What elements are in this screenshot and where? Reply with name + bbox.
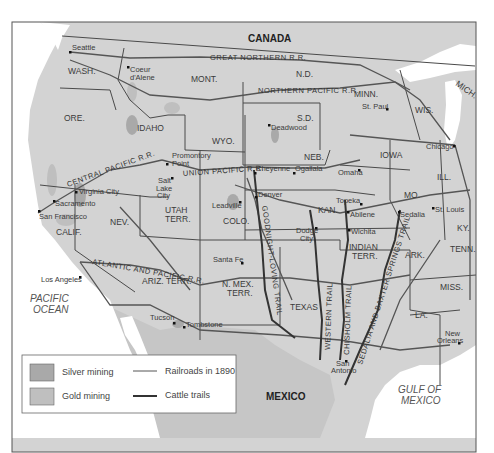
- city-label: d'Alene: [130, 73, 155, 82]
- city-label: Sacramento: [55, 199, 95, 208]
- city-label: Abilene: [350, 210, 375, 219]
- state-label: WYO.: [212, 136, 235, 146]
- city-label: Denver: [258, 190, 283, 199]
- city-label: St. Louis: [435, 205, 464, 214]
- water-label-gulf: GULF OF: [398, 384, 442, 395]
- state-label: NEB.: [304, 152, 324, 162]
- city-label: Antonio: [331, 366, 356, 375]
- legend-gold-label: Gold mining: [62, 391, 110, 401]
- city-label: Omaha: [338, 168, 363, 177]
- city-label: City: [300, 234, 313, 243]
- map: CANADA MEXICO PACIFIC OCEAN GULF OF MEXI…: [0, 0, 494, 453]
- state-label: TERR.: [227, 288, 253, 298]
- state-label: IDAHO: [137, 123, 164, 133]
- state-label: MISS.: [440, 282, 463, 292]
- state-label: KY.: [457, 223, 470, 233]
- state-label: WIS.: [415, 105, 433, 115]
- state-label: CALIF.: [56, 227, 82, 237]
- state-label: MONT.: [191, 74, 217, 84]
- legend-trail-label: Cattle trails: [165, 390, 211, 400]
- city-label: Chicago: [426, 142, 454, 151]
- state-label: KAN.: [318, 205, 338, 215]
- city-label: Tucson: [150, 313, 174, 322]
- gold-mining-area: [164, 102, 180, 114]
- state-label: MO.: [404, 190, 420, 200]
- city-label: Virginia City: [79, 187, 119, 196]
- state-label: ARK.: [405, 250, 425, 260]
- legend-silver-swatch: [30, 364, 54, 381]
- state-label: TERR.: [352, 251, 378, 261]
- city-label: Wichita: [351, 227, 376, 236]
- country-label-mexico: MEXICO: [266, 391, 306, 402]
- city-label: San Francisco: [39, 212, 87, 221]
- water-label-ocean: OCEAN: [33, 304, 69, 315]
- state-label: TENN.: [450, 244, 476, 254]
- legend-gold-swatch: [30, 388, 54, 405]
- state-label: TEXAS: [290, 302, 318, 312]
- legend-railroad-label: Railroads in 1890: [165, 366, 235, 376]
- state-label: LA.: [415, 310, 428, 320]
- city-label: City: [157, 191, 170, 200]
- city-label: Leadville: [212, 201, 242, 210]
- gold-mining-area: [47, 164, 57, 196]
- city-label: Orleans: [437, 336, 464, 345]
- state-label: WASH.: [68, 66, 96, 76]
- city-label: Tombstone: [186, 320, 223, 329]
- railroad-label: NORTHERN PACIFIC R.R.: [258, 86, 359, 95]
- state-label: ORE.: [64, 113, 85, 123]
- state-label: COLO.: [223, 216, 249, 226]
- state-label: N.D.: [296, 69, 313, 79]
- gold-mining-area: [127, 82, 137, 102]
- city-label: Topeka: [336, 196, 361, 205]
- city-label: Point: [172, 159, 190, 168]
- state-label: NEV.: [110, 217, 129, 227]
- city-label: Los Angeles: [41, 275, 82, 284]
- city-label: Santa Fe: [213, 255, 243, 264]
- city-label: Ogallala: [295, 164, 323, 173]
- state-label: TERR.: [165, 214, 191, 224]
- city-label: Deadwood: [271, 123, 307, 132]
- city-label: St. Paul: [362, 102, 389, 111]
- legend-silver-label: Silver mining: [62, 367, 114, 377]
- state-label: IOWA: [380, 150, 403, 160]
- city-label: Seattle: [72, 43, 95, 52]
- railroad-label: GREAT NORTHERN R.R.: [210, 53, 306, 62]
- water-label-mexico: MEXICO: [401, 395, 441, 406]
- country-label-canada: CANADA: [248, 33, 291, 44]
- water-label-pacific: PACIFIC: [30, 293, 69, 304]
- state-label: S.D.: [297, 113, 314, 123]
- state-label: ILL.: [437, 172, 451, 182]
- legend: Silver mining Gold mining Railroads in 1…: [22, 355, 236, 413]
